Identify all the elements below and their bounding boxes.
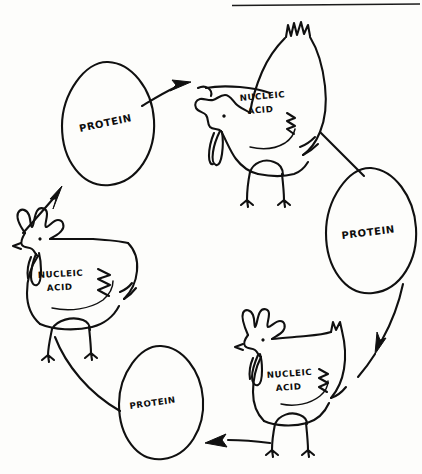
figure-canvas: PROTEIN — [0, 0, 422, 474]
chicken-bottom-label-line2: ACID — [275, 381, 301, 393]
chicken-egg-cycle-figure: PROTEIN — [0, 0, 422, 474]
chicken-left-label-line2: ACID — [47, 282, 73, 293]
